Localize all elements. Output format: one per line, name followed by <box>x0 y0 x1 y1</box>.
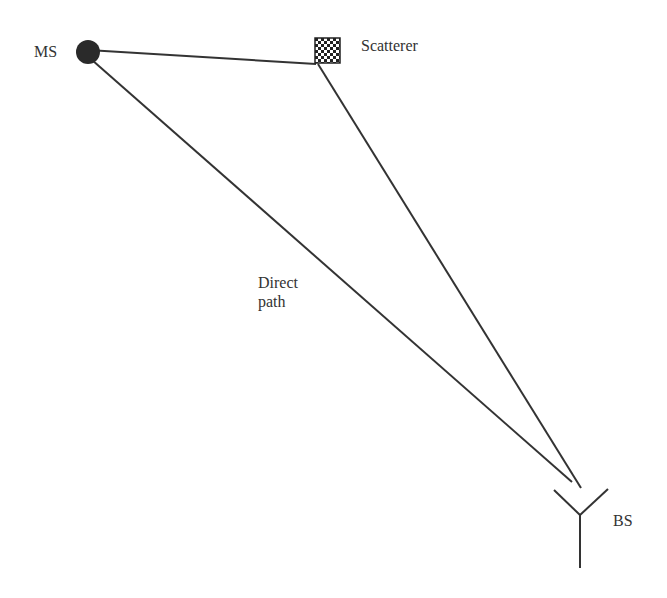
direct-path-label: Direct path <box>258 273 298 311</box>
direct-path-label-line2: path <box>258 292 298 311</box>
ms-node-icon <box>76 40 100 64</box>
direct-path-label-line1: Direct <box>258 273 298 292</box>
ms-to-scatterer-path <box>88 50 316 64</box>
scatterer-to-bs-path <box>318 64 581 488</box>
bs-label: BS <box>613 511 633 530</box>
propagation-diagram <box>0 0 667 598</box>
scatterer-label: Scatterer <box>361 36 418 55</box>
bs-antenna-icon <box>554 489 608 568</box>
direct-path-line <box>92 60 572 482</box>
scatterer-node-icon <box>315 38 340 63</box>
ms-label: MS <box>34 42 57 61</box>
